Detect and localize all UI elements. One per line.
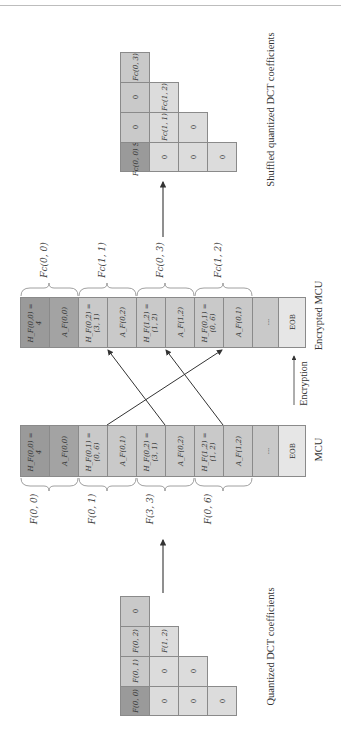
brace-icon <box>21 283 252 296</box>
brace-icon <box>21 478 252 491</box>
permutation-arrow-icon <box>166 350 223 425</box>
permutation-arrow-icon <box>107 350 222 425</box>
permutation-arrow-icon <box>108 350 165 425</box>
connector-layer <box>0 0 341 748</box>
